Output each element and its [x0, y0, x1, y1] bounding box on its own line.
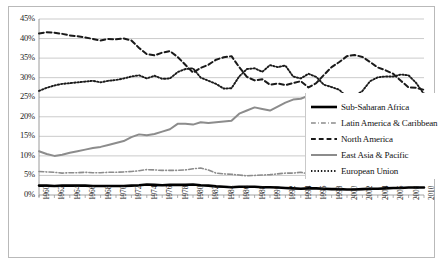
- legend-label: East Asia & Pacific: [341, 150, 408, 160]
- x-tick-label: 1994: [304, 186, 313, 200]
- y-tick-label: 0%: [9, 190, 35, 199]
- y-tick-label: 30%: [9, 73, 35, 82]
- x-tick-label: 1976: [165, 186, 174, 200]
- x-tick-label: 1970: [119, 186, 128, 200]
- x-tick-label: 1986: [242, 186, 251, 200]
- legend-swatch-icon: [311, 150, 337, 160]
- legend-label: European Union: [341, 166, 398, 176]
- x-tick-label: 1980: [196, 186, 205, 200]
- y-tick-label: 10%: [9, 151, 35, 160]
- legend-swatch-icon: [311, 102, 337, 112]
- legend-label: North America: [341, 134, 393, 144]
- y-tick-label: 15%: [9, 131, 35, 140]
- x-tick-label: 1992: [288, 186, 297, 200]
- x-tick-label: 1978: [181, 186, 190, 200]
- legend-item[interactable]: North America: [311, 132, 393, 146]
- legend-label: Latin America & Caribbean: [341, 118, 437, 128]
- x-tick-label: 1984: [227, 186, 236, 200]
- x-tick-label: 2008: [412, 186, 421, 200]
- x-tick-label: 1996: [319, 186, 328, 200]
- x-tick-label: 1964: [73, 186, 82, 200]
- legend-item[interactable]: East Asia & Pacific: [311, 148, 408, 162]
- y-tick-label: 25%: [9, 92, 35, 101]
- y-tick-label: 20%: [9, 112, 35, 121]
- legend-label: Sub-Saharan Africa: [341, 102, 409, 112]
- y-tick-label: 45%: [9, 14, 35, 23]
- legend-swatch-icon: [311, 134, 337, 144]
- chart-legend: Sub-Saharan AfricaLatin America & Caribb…: [305, 93, 443, 179]
- legend-item[interactable]: European Union: [311, 164, 398, 178]
- x-tick-label: 1982: [211, 186, 220, 200]
- x-tick-label: 1972: [134, 186, 143, 200]
- y-tick-label: 5%: [9, 170, 35, 179]
- chart-frame: 0%5%10%15%20%25%30%35%40%45% 19601962196…: [8, 6, 435, 258]
- x-tick-label: 1966: [88, 186, 97, 200]
- x-tick-label: 2006: [396, 186, 405, 200]
- x-tick-label: 1990: [273, 186, 282, 200]
- legend-swatch-icon: [311, 118, 337, 128]
- x-tick-label: 1988: [258, 186, 267, 200]
- legend-item[interactable]: Latin America & Caribbean: [311, 116, 437, 130]
- chart-figure: 0%5%10%15%20%25%30%35%40%45% 19601962196…: [0, 0, 443, 269]
- x-tick-label: 1998: [335, 186, 344, 200]
- y-tick-label: 40%: [9, 34, 35, 43]
- x-tick-label: 1960: [42, 186, 51, 200]
- legend-item[interactable]: Sub-Saharan Africa: [311, 100, 409, 114]
- x-tick-label: 2010: [427, 186, 436, 200]
- x-tick-label: 2004: [381, 186, 390, 200]
- legend-swatch-icon: [311, 166, 337, 176]
- y-tick-label: 35%: [9, 53, 35, 62]
- x-tick-label: 2002: [365, 186, 374, 200]
- x-tick-label: 1968: [104, 186, 113, 200]
- x-tick-label: 2000: [350, 186, 359, 200]
- x-tick-label: 1962: [57, 186, 66, 200]
- x-tick-label: 1974: [150, 186, 159, 200]
